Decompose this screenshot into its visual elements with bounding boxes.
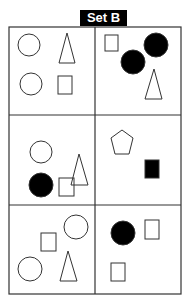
cell-2-2 [111,130,159,178]
triangle-outline-icon [60,251,77,281]
circle-filled-icon [29,173,53,197]
triangle-outline-icon [145,69,162,99]
square-outline-icon [111,263,125,281]
circle-outline-icon [20,73,42,95]
circle-outline-icon [64,215,88,239]
square-filled-icon [145,160,159,178]
circle-outline-icon [18,34,40,56]
circle-filled-icon [144,33,168,57]
circle-filled-icon [121,50,145,74]
triangle-outline-icon [59,33,75,63]
square-outline-icon [145,220,159,239]
cell-1-2 [105,33,168,99]
square-outline-icon [41,233,56,251]
circle-filled-icon [111,221,135,245]
square-outline-icon [58,76,72,94]
cell-1-1 [18,33,75,95]
circle-outline-icon [30,141,52,163]
cell-3-1 [18,215,88,281]
circle-outline-icon [18,257,42,281]
cell-2-1 [29,141,88,197]
cell-3-2 [111,220,159,281]
shape-grid [0,0,185,302]
square-outline-icon [105,35,118,51]
pentagon-outline-icon [111,130,133,154]
